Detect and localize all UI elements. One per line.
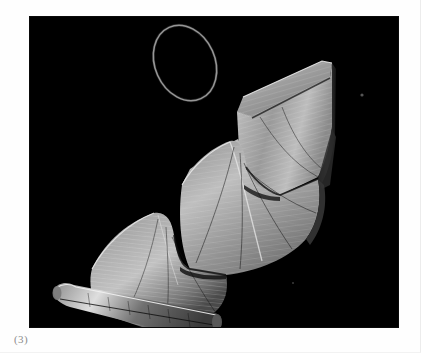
figure-caption: (3) [14, 333, 28, 345]
speck-right [360, 93, 363, 96]
speck-lower [292, 282, 294, 284]
figure-page: (3) [0, 0, 421, 353]
surface-render-canvas [30, 17, 398, 327]
figure-render-frame [30, 17, 398, 327]
